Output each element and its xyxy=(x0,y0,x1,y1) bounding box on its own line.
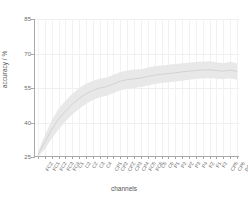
x-tick-mark xyxy=(148,156,149,159)
x-tick-mark xyxy=(79,156,80,159)
x-tick-mark xyxy=(162,156,163,159)
y-tick-mark xyxy=(31,54,35,55)
y-tick-label: 25 xyxy=(24,154,31,160)
x-tick-mark xyxy=(45,156,46,159)
x-tick-mark xyxy=(52,156,53,159)
x-tick-mark xyxy=(230,156,231,159)
y-tick-mark xyxy=(31,157,35,158)
x-tick-mark xyxy=(93,156,94,159)
y-tick-mark xyxy=(31,19,35,20)
data-layer xyxy=(35,19,240,157)
x-tick-mark xyxy=(189,156,190,159)
chart-figure: accuracy / % 2540557085 FCZFC1FC2FC3FC4C… xyxy=(0,0,248,201)
x-tick-mark xyxy=(100,156,101,159)
y-tick-mark xyxy=(31,88,35,89)
x-tick-mark xyxy=(237,156,238,159)
x-tick-mark xyxy=(175,156,176,159)
y-axis-title: accuracy / % xyxy=(1,51,8,88)
x-tick-mark xyxy=(196,156,197,159)
x-tick-mark xyxy=(223,156,224,159)
x-tick-mark xyxy=(59,156,60,159)
x-tick-mark xyxy=(127,156,128,159)
x-tick-label: C4 xyxy=(105,161,113,169)
x-tick-mark xyxy=(113,156,114,159)
x-tick-mark xyxy=(155,156,156,159)
x-tick-mark xyxy=(86,156,87,159)
y-tick-mark xyxy=(31,123,35,124)
x-tick-mark xyxy=(168,156,169,159)
plot-area: 2540557085 FCZFC1FC2FC3FC4C1C2CZC3C4CP1C… xyxy=(34,19,239,157)
y-tick-label: 70 xyxy=(24,51,31,57)
x-tick-mark xyxy=(182,156,183,159)
x-axis-title: channels xyxy=(0,185,248,192)
x-tick-mark xyxy=(134,156,135,159)
x-tick-mark xyxy=(120,156,121,159)
x-tick-mark xyxy=(38,156,39,159)
x-tick-label: F2 xyxy=(221,161,228,169)
x-tick-mark xyxy=(72,156,73,159)
y-tick-label: 85 xyxy=(24,16,31,22)
x-tick-mark xyxy=(65,156,66,159)
x-tick-mark xyxy=(210,156,211,159)
x-tick-mark xyxy=(141,156,142,159)
x-tick-mark xyxy=(203,156,204,159)
y-tick-label: 40 xyxy=(24,120,31,126)
x-tick-mark xyxy=(107,156,108,159)
y-tick-label: 55 xyxy=(24,85,31,91)
x-tick-mark xyxy=(216,156,217,159)
